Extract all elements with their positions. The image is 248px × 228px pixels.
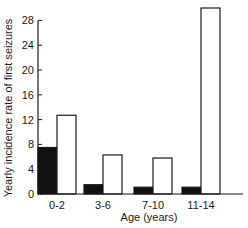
x-axis: 0-23-67-1011-14 [38, 194, 243, 211]
bar-black-3-6 [84, 185, 103, 194]
bar-chart: 0481216202428 0-23-67-1011-14 Yearly inc… [0, 0, 248, 228]
y-tick-label: 12 [22, 114, 34, 126]
y-tick-label: 0 [28, 188, 34, 200]
bar-white-3-6 [103, 155, 122, 194]
y-tick-label: 16 [22, 89, 34, 101]
x-category-label: 11-14 [187, 199, 214, 211]
bar-black-0-2 [38, 148, 57, 195]
bar-white-0-2 [57, 115, 76, 194]
y-tick-label: 8 [28, 138, 34, 150]
x-axis-title: Age (years) [121, 211, 178, 223]
bars [38, 8, 220, 194]
bar-black-7-10 [134, 187, 153, 194]
x-category-label: 7-10 [142, 199, 164, 211]
y-tick-label: 28 [22, 14, 34, 26]
y-axis-title: Yearly incidence rate of first seizures [2, 18, 14, 197]
y-tick-label: 20 [22, 64, 34, 76]
x-category-label: 0-2 [49, 199, 65, 211]
bar-white-11-14 [201, 8, 220, 194]
bar-black-11-14 [182, 187, 201, 194]
bar-white-7-10 [153, 158, 172, 194]
x-category-label: 3-6 [95, 199, 111, 211]
y-tick-label: 24 [22, 39, 34, 51]
y-tick-label: 4 [28, 163, 34, 175]
